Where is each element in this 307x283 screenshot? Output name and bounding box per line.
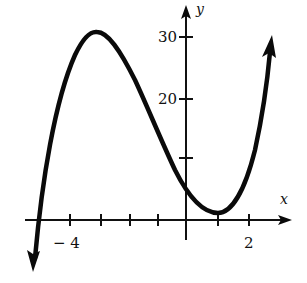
x-axis: − 4 2 x xyxy=(25,191,292,252)
y-tick-label-20: 20 xyxy=(158,90,177,108)
function-graph: − 4 2 x 20 30 y xyxy=(0,0,307,283)
x-tick-label-neg4: − 4 xyxy=(53,234,80,252)
y-tick-label-30: 30 xyxy=(158,28,177,46)
x-tick-label-2: 2 xyxy=(244,234,254,252)
x-axis-label: x xyxy=(280,191,288,207)
y-axis-label: y xyxy=(195,1,205,17)
